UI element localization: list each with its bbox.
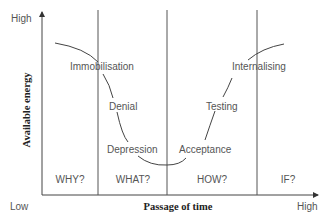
- phase-what: WHAT?: [116, 174, 151, 185]
- change-curve: [55, 43, 98, 62]
- stage-immobilisation: Immobilisation: [70, 61, 134, 72]
- x-axis-title: Passage of time: [144, 201, 213, 212]
- phase-how: HOW?: [197, 174, 227, 185]
- phase-if: IF?: [281, 174, 296, 185]
- phase-why: WHY?: [56, 174, 85, 185]
- x-high-label: High: [297, 201, 318, 212]
- y-axis-title: Available energy: [21, 72, 32, 148]
- stage-acceptance: Acceptance: [179, 144, 232, 155]
- change-curve: [103, 74, 113, 98]
- stage-internalising: Internalising: [232, 61, 286, 72]
- change-curve: [223, 78, 232, 97]
- stage-depression: Depression: [107, 144, 158, 155]
- change-curve: [138, 156, 186, 165]
- x-low-label: Low: [10, 201, 29, 212]
- y-high-label: High: [11, 13, 32, 24]
- change-curve: [205, 111, 215, 140]
- stage-testing: Testing: [206, 101, 238, 112]
- change-curve-diagram: High Low High Passage of time Available …: [0, 0, 336, 224]
- stage-denial: Denial: [109, 101, 137, 112]
- change-curve: [248, 44, 284, 60]
- change-curve: [117, 112, 128, 142]
